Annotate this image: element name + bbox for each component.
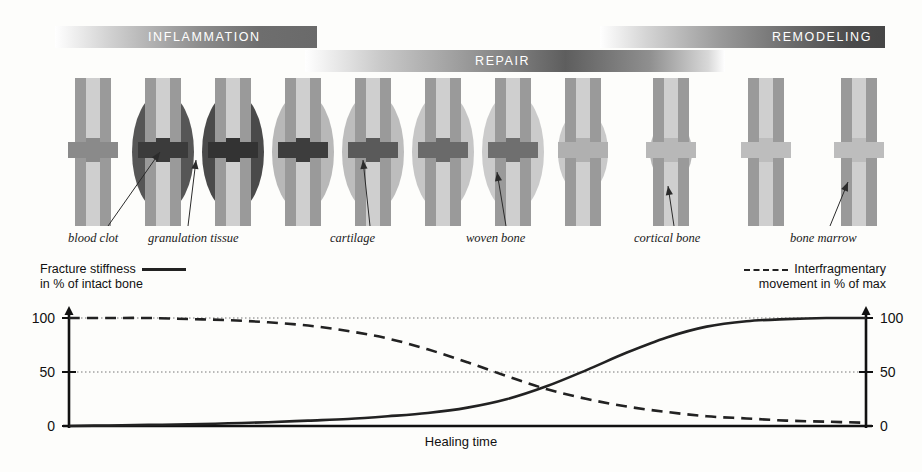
- arrowhead-woven-bone: [495, 172, 502, 181]
- leader-lines: [0, 0, 922, 260]
- callout-label-woven-bone: woven bone: [466, 231, 525, 246]
- arrowhead-blood-clot: [152, 152, 160, 161]
- callout-label-blood-clot: blood clot: [68, 231, 118, 246]
- ytick-label-left-100: 100: [32, 310, 56, 326]
- ytick-label-left-0: 0: [47, 418, 55, 434]
- arrowhead-granulation-tissue: [191, 160, 198, 169]
- arrowhead-cartilage: [360, 160, 367, 169]
- ytick-label-left-50: 50: [39, 364, 55, 380]
- ytick-label-right-50: 50: [880, 364, 896, 380]
- healing-chart: Fracture stiffness in % of intact bone I…: [0, 258, 922, 472]
- callout-label-bone-marrow: bone marrow: [790, 231, 857, 246]
- leader-line-blood-clot: [108, 152, 160, 226]
- ytick-label-right-100: 100: [880, 310, 904, 326]
- callout-label-cortical-bone: cortical bone: [634, 231, 700, 246]
- arrowhead-bone-marrow: [841, 182, 848, 192]
- leader-line-granulation-tissue: [188, 160, 196, 226]
- x-axis-label: Healing time: [0, 434, 922, 449]
- callout-label-granulation-tissue: granulation tissue: [148, 231, 239, 246]
- arrowhead-cortical-bone: [666, 186, 673, 195]
- ytick-label-right-0: 0: [880, 418, 888, 434]
- y-axis-right-arrow: [862, 306, 871, 315]
- y-axis-left-arrow: [65, 306, 74, 315]
- leader-line-cartilage: [363, 160, 370, 226]
- callout-label-cartilage: cartilage: [330, 231, 375, 246]
